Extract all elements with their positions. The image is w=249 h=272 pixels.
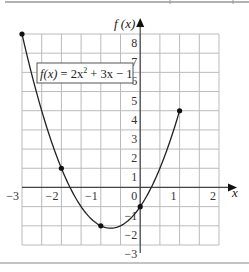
x-tick-label: 1 — [171, 189, 177, 203]
x-tick-label: −3 — [6, 189, 19, 203]
equation-label: f(x) = 2x2 + 3x − 1 — [37, 63, 133, 83]
y-tick-label: 2 — [131, 151, 137, 165]
y-tick-label: 5 — [131, 94, 137, 108]
equation-rhs: + 3x − 1 — [87, 67, 132, 81]
data-point — [138, 204, 143, 209]
data-point — [19, 31, 24, 36]
equation-lhs: f(x) — [40, 67, 57, 81]
data-point — [98, 223, 103, 228]
x-tick-label: 2 — [210, 189, 216, 203]
y-tick-label: −3 — [124, 247, 137, 261]
equation-text: f(x) = 2x2 + 3x − 1 — [40, 66, 133, 81]
x-tick-label: 0 — [131, 189, 137, 203]
y-tick-label: 1 — [131, 170, 137, 184]
y-tick-label: 8 — [131, 36, 137, 50]
data-point — [177, 108, 182, 113]
y-axis-label: f (x) — [114, 16, 135, 31]
function-graph: −3−2−101287654321−1−2−3 f(x) = 2x2 + 3x … — [0, 0, 249, 272]
y-tick-label: 4 — [131, 113, 137, 127]
x-tick-label: −1 — [85, 189, 98, 203]
data-point — [59, 166, 64, 171]
x-axis-label: x — [231, 185, 238, 200]
y-tick-label: −1 — [124, 209, 137, 223]
y-tick-label: 3 — [131, 132, 137, 146]
y-axis-arrow-icon — [136, 18, 144, 27]
equation-mid: = 2x — [57, 67, 84, 81]
y-tick-label: −2 — [124, 228, 137, 242]
x-tick-label: −2 — [46, 189, 59, 203]
